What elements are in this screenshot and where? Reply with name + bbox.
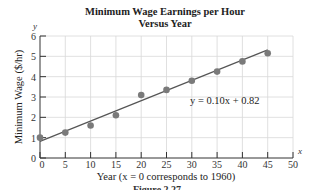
data-point [189, 77, 196, 84]
y-axis-variable: y [32, 21, 37, 31]
svg-text:4: 4 [31, 72, 36, 83]
svg-text:5: 5 [31, 51, 36, 62]
y-axis-label: Minimum Wage ($/hr) [13, 49, 25, 144]
svg-text:45: 45 [263, 159, 273, 170]
svg-text:25: 25 [162, 159, 172, 170]
svg-text:40: 40 [237, 159, 247, 170]
data-point [138, 92, 145, 99]
x-axis-variable: x [297, 146, 302, 156]
data-point [113, 112, 120, 119]
svg-text:3: 3 [31, 92, 36, 103]
equation-label: y = 0.10x + 0.82 [190, 95, 260, 106]
svg-text:35: 35 [212, 159, 222, 170]
svg-text:20: 20 [136, 159, 146, 170]
scatter-plot: 051015202530354045500123456 y = 0.10x + … [0, 0, 314, 190]
svg-text:5: 5 [63, 159, 68, 170]
svg-text:2: 2 [31, 112, 36, 123]
data-point [214, 68, 221, 75]
data-point [62, 129, 69, 136]
svg-text:6: 6 [31, 31, 36, 42]
data-point [163, 87, 170, 94]
figure-caption: Figure 2.27 [0, 184, 314, 190]
svg-text:50: 50 [288, 159, 298, 170]
svg-text:10: 10 [86, 159, 96, 170]
svg-text:30: 30 [187, 159, 197, 170]
data-point [239, 58, 246, 65]
svg-text:0: 0 [40, 159, 45, 170]
data-point [37, 134, 44, 141]
svg-text:0: 0 [31, 153, 36, 164]
svg-text:1: 1 [31, 133, 36, 144]
x-axis-label: Year (x = 0 corresponds to 1960) [97, 171, 236, 183]
data-point [264, 50, 271, 57]
svg-text:15: 15 [111, 159, 121, 170]
data-point [87, 122, 94, 129]
